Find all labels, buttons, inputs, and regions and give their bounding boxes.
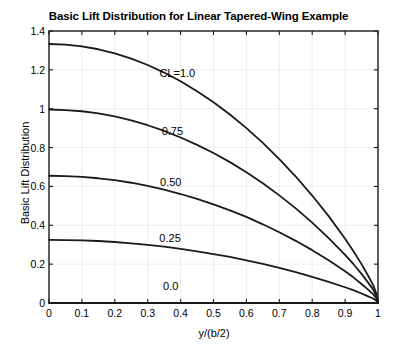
x-axis-label: y/(b/2) bbox=[49, 327, 379, 339]
curve-label-2: 0.50 bbox=[160, 176, 181, 188]
x-tick-label: 0.1 bbox=[75, 307, 90, 319]
figure-canvas: Basic Lift Distribution for Linear Taper… bbox=[0, 0, 397, 349]
gridlines bbox=[49, 31, 378, 303]
x-tick-label: 0.3 bbox=[140, 307, 155, 319]
plot-area bbox=[0, 0, 397, 349]
x-tick-label: 1 bbox=[375, 307, 381, 319]
x-tick-label: 0.9 bbox=[338, 307, 353, 319]
y-tick-label: 0.8 bbox=[30, 142, 45, 154]
x-tick-label: 0 bbox=[46, 307, 52, 319]
x-tick-label: 0.8 bbox=[305, 307, 320, 319]
curve-label-4: 0.0 bbox=[163, 280, 178, 292]
y-tick-label: 1 bbox=[39, 103, 45, 115]
curve-label-0: CL=1.0 bbox=[159, 67, 195, 79]
x-tick-label: 0.6 bbox=[239, 307, 254, 319]
curve-label-1: 0.75 bbox=[162, 125, 183, 137]
x-tick-label: 0.4 bbox=[173, 307, 188, 319]
y-tick-label: 1.4 bbox=[30, 25, 45, 37]
y-tick-label: 1.2 bbox=[30, 64, 45, 76]
y-axis-label: Basic Lift Distribution bbox=[19, 93, 31, 253]
y-tick-label: 0.6 bbox=[30, 180, 45, 192]
x-tick-label: 0.7 bbox=[272, 307, 287, 319]
x-tick-label: 0.2 bbox=[107, 307, 122, 319]
y-tick-label: 0.4 bbox=[30, 219, 45, 231]
curve-label-3: 0.25 bbox=[159, 232, 180, 244]
y-tick-label: 0.2 bbox=[30, 258, 45, 270]
y-tick-label: 0 bbox=[39, 297, 45, 309]
x-tick-label: 0.5 bbox=[206, 307, 221, 319]
